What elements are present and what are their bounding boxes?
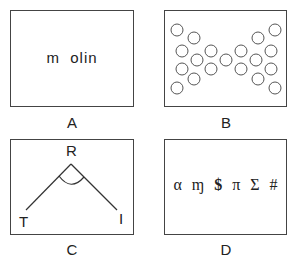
circles-pattern (165, 11, 288, 108)
circle (269, 82, 281, 94)
circle (205, 45, 217, 57)
circle (176, 63, 188, 75)
vertex-r-label: R (66, 142, 77, 159)
circle (235, 45, 247, 57)
vertex-i-label: I (119, 210, 123, 227)
panel-a-label: A (10, 114, 134, 131)
vertex-t-label: T (19, 213, 28, 230)
circle (220, 54, 232, 66)
ray-rt (26, 164, 71, 210)
panel-c-box: R T I (10, 139, 134, 235)
circle (265, 45, 277, 57)
circle (252, 32, 264, 44)
circle (176, 45, 188, 57)
circle (265, 63, 277, 75)
panel-a-word: m olin (11, 49, 133, 66)
panel-a-box: m olin (10, 10, 134, 107)
angle-diagram: R T I (11, 140, 135, 236)
circle (171, 24, 183, 36)
circle (269, 24, 281, 36)
symbol-row: α ɱ $ π Σ # (165, 176, 286, 194)
dollar-symbol: $ (214, 176, 222, 193)
circle (188, 73, 200, 85)
hash-symbol: # (270, 176, 278, 193)
circle (252, 73, 264, 85)
angle-arc (59, 176, 84, 184)
sigma-symbol: Σ (250, 176, 259, 193)
panel-d-label: D (164, 241, 288, 258)
ray-ri (71, 164, 117, 210)
circle (205, 63, 217, 75)
panel-b-label: B (164, 114, 288, 131)
panel-c-label: C (10, 241, 134, 258)
circle (171, 82, 183, 94)
panel-b-box (164, 10, 287, 107)
alpha-symbol: α (173, 176, 181, 193)
circle (250, 54, 262, 66)
pi-symbol: π (232, 176, 240, 193)
circle (188, 32, 200, 44)
panel-d-box: α ɱ $ π Σ # (164, 139, 287, 235)
circle (191, 54, 203, 66)
circle (235, 63, 247, 75)
m-hook-symbol: ɱ (192, 176, 204, 193)
